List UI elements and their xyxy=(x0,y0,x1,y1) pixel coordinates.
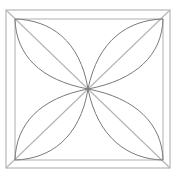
tile-pattern xyxy=(0,0,174,174)
diagram-canvas xyxy=(0,0,174,174)
